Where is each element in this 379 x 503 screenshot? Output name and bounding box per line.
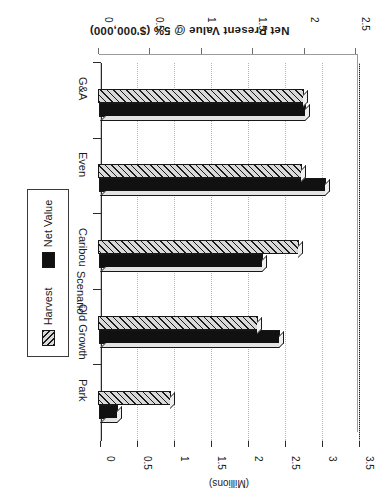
value-axis-near-tick-label: 2 [309,17,320,23]
tick-mark [149,48,150,54]
value-axis-far-tick-label: 1.5 [216,456,227,470]
bar-group [101,234,360,268]
tick-mark [100,441,101,447]
category-tick [93,62,101,63]
bar-net-value [99,103,306,117]
tick-mark [98,48,99,54]
category-tick [93,364,101,365]
category-label: Caribou [77,228,89,267]
tick-mark [211,441,212,447]
tick-mark [355,48,356,54]
value-axis-far-tick-label: 0.5 [142,456,153,470]
bar-net-value [99,330,280,344]
bar-harvest [98,89,304,103]
bar-net-value [99,178,326,192]
tick-mark [174,441,175,447]
bar-harvest [98,164,302,178]
bar-harvest [98,316,258,330]
tick-mark [252,48,253,54]
tick-mark [137,441,138,447]
value-axis-far-tick-label: 2 [253,456,264,462]
bar-top-face [100,116,310,121]
bar-side-face [170,392,175,409]
legend-swatch-icon [42,252,55,268]
bar-top-face [100,343,284,348]
value-axis-far-tick-label: 3.5 [364,456,375,470]
value-axis-title: (Millions) [79,478,379,489]
value-axis-far-tick-label: 2.5 [290,456,301,470]
value-axis-far-tick-label: 3 [327,456,338,462]
tick-mark [322,441,323,447]
tick-mark [201,48,202,54]
bar-chart-figure: Net Present Value @ 5% ($'000,000) (Mill… [0,0,379,503]
value-axis-far-tick-label: 0 [105,456,116,462]
tick-mark [248,441,249,447]
category-tick [93,213,101,214]
rotated-figure-wrapper: Net Present Value @ 5% ($'000,000) (Mill… [0,0,379,503]
plot-area: 3.532.521.510.50 2.521.510.50 G&AEvenCar… [101,63,360,441]
legend-item: Harvest [42,287,55,346]
value-axis-near-tick-label: 0 [103,17,114,23]
legend-swatch-icon [42,330,55,346]
chart-title: Net Present Value @ 5% ($'000,000) [0,25,379,37]
bar-group [101,385,360,419]
bar-net-value [99,405,118,419]
tick-mark [304,48,305,54]
legend-label: Net Value [42,200,54,248]
bar-harvest [98,391,171,405]
legend-label: Harvest [42,287,54,325]
legend: HarvestNet Value [27,189,69,357]
legend-item: Net Value [42,200,55,269]
bar-group [101,310,360,344]
bar-side-face [303,90,308,107]
bar-group [101,158,360,192]
category-tick [93,138,101,139]
bar-group [101,83,360,117]
bar-top-face [100,191,330,196]
tick-mark [285,441,286,447]
bar-top-face [100,267,267,272]
category-label: Park [77,379,89,402]
category-label: Old Growth [77,304,89,360]
value-axis-near-tick-label: 1 [206,17,217,23]
value-axis-near-tick-label: 0.5 [154,17,165,31]
value-axis-near-tick-label: 1.5 [257,17,268,31]
value-axis-near-tick-label: 2.5 [360,17,371,31]
value-axis-far-tick-label: 1 [179,456,190,462]
bar-net-value [99,254,263,268]
category-tick [93,289,101,290]
bar-harvest [98,240,299,254]
category-label: G&A [77,77,89,100]
tick-mark [359,441,360,447]
category-label: Even [77,152,89,177]
bar-side-face [298,241,303,258]
